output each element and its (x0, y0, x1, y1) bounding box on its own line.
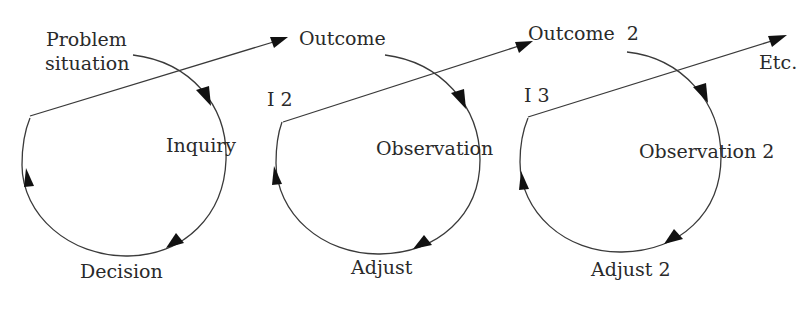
outcome-2-label: Outcome 2 (528, 22, 639, 44)
arrow-head-icon (270, 37, 288, 48)
observation-label: Observation (376, 137, 493, 159)
arrow-head-icon (24, 168, 34, 187)
adjust-label: Adjust (351, 256, 412, 278)
cycle-2-outcome-line (283, 44, 525, 122)
problem-situation-label-line1: Problem (46, 28, 127, 50)
iteration-2-label: I 2 (267, 88, 293, 110)
outcome-label: Outcome (299, 27, 386, 49)
observation-2-label: Observation 2 (639, 140, 774, 162)
arrow-head-icon (768, 35, 787, 47)
inquiry-label: Inquiry (166, 134, 236, 156)
arrow-head-icon (196, 86, 211, 106)
decision-label: Decision (80, 260, 163, 282)
iteration-3-label: I 3 (524, 84, 550, 106)
arrow-head-icon (272, 166, 282, 185)
adjust-2-label: Adjust 2 (591, 258, 671, 280)
cycle-3-etc-line (528, 39, 778, 117)
problem-situation-label-line2: situation (45, 52, 129, 74)
arrow-head-icon (413, 235, 432, 249)
arrow-head-icon (166, 233, 184, 248)
arrow-head-icon (664, 229, 683, 244)
etc-label: Etc. (759, 51, 797, 73)
arrow-head-icon (451, 89, 466, 109)
inquiry-cycle-diagram: Problem situation Inquiry Decision Outco… (0, 0, 808, 324)
